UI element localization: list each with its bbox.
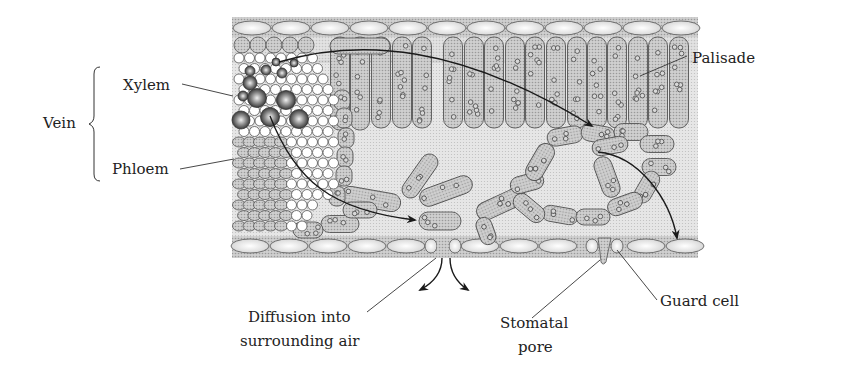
label-diffusion-line2: surrounding air (240, 332, 360, 350)
label-phloem: Phloem (112, 160, 169, 178)
label-palisade: Palisade (692, 49, 755, 67)
vein-brace (89, 67, 100, 181)
lower-epidermis (231, 239, 704, 253)
label-diffusion-line1: Diffusion into (248, 308, 351, 326)
label-stomatal-line2: pore (518, 338, 553, 356)
leaf-cross-section-diagram: Vein Xylem Phloem Palisade Diffusion int… (0, 0, 851, 378)
label-guard-cell: Guard cell (660, 292, 739, 310)
label-stomatal-line1: Stomatal (500, 314, 568, 332)
label-vein: Vein (42, 114, 76, 132)
label-xylem: Xylem (123, 76, 170, 94)
guard-cell (611, 239, 623, 253)
